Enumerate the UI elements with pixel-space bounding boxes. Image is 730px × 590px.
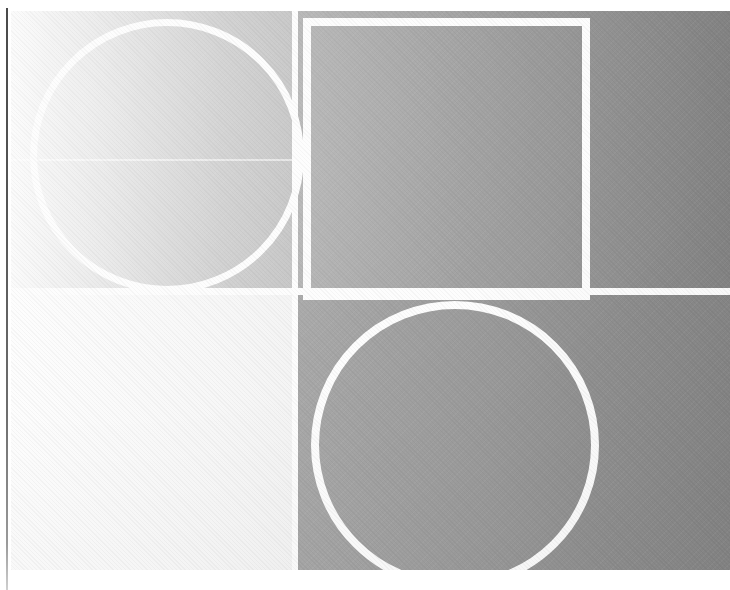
image-canvas	[0, 0, 730, 590]
circle-outline-bottom-right	[311, 301, 599, 570]
quadrant-bottom-left	[11, 292, 296, 570]
left-margin-rule	[6, 8, 8, 590]
artwork-plate	[11, 11, 730, 570]
rectangle-outline-top-right	[303, 18, 590, 300]
circle-outline-top-left	[30, 19, 304, 293]
